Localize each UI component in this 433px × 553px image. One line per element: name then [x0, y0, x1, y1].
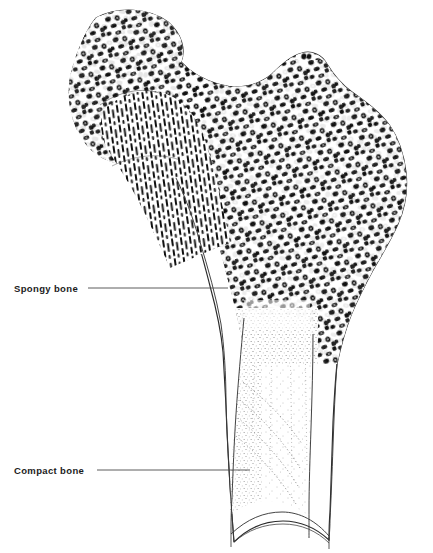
compact-bone-label: Compact bone	[14, 465, 84, 476]
femur-figure: Spongy bone Compact bone	[0, 0, 433, 553]
spongy-bone-label: Spongy bone	[14, 283, 78, 294]
metaphysis-transition	[236, 300, 318, 368]
femur-diagram-svg: Spongy bone Compact bone	[0, 0, 433, 553]
